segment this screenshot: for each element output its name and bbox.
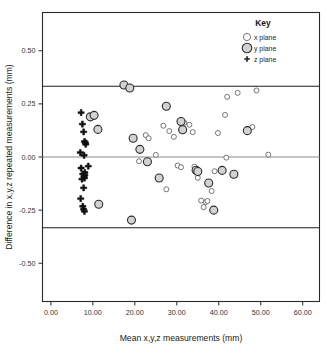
legend-label-z-plane: z plane xyxy=(254,56,276,64)
x-axis-title: Mean x,y,z measurements (mm) xyxy=(120,333,243,343)
data-point-y-plane xyxy=(179,126,187,134)
y-tick-label: -0.25 xyxy=(19,206,35,215)
data-point-x-plane xyxy=(212,169,217,174)
data-point-y-plane xyxy=(90,111,98,119)
x-tick-label: 30.00 xyxy=(168,308,186,317)
data-point-y-plane xyxy=(129,134,137,142)
bland-altman-scatter-figure: 0.0010.0020.0030.0040.0050.0060.00 0.500… xyxy=(0,0,326,348)
data-point-y-plane xyxy=(95,200,103,208)
legend-label-x-plane: x plane xyxy=(254,34,276,42)
data-point-y-plane xyxy=(230,170,238,178)
data-point-y-plane xyxy=(194,167,202,175)
data-point-x-plane xyxy=(195,175,200,180)
x-tick-label: 50.00 xyxy=(252,308,270,317)
y-axis-title: Difference in x,y,z repeated measurement… xyxy=(4,64,14,250)
data-point-x-plane xyxy=(235,90,240,95)
x-tick-label: 20.00 xyxy=(126,308,144,317)
y-tick-label: 0.25 xyxy=(22,99,36,108)
data-point-x-plane xyxy=(137,159,142,164)
legend-marker-x-plane xyxy=(243,33,250,40)
x-tick-label: 0.00 xyxy=(44,308,58,317)
data-point-y-plane xyxy=(136,145,144,153)
y-tick-label: -0.50 xyxy=(19,259,35,268)
data-point-y-plane xyxy=(143,158,151,166)
x-tick-label: 60.00 xyxy=(294,308,312,317)
data-point-y-plane xyxy=(205,179,213,187)
data-point-x-plane xyxy=(190,130,195,135)
plot-svg: 0.0010.0020.0030.0040.0050.0060.00 0.500… xyxy=(0,0,326,348)
y-tick-label: 0.00 xyxy=(22,153,36,162)
y-tick-label: 0.50 xyxy=(22,46,36,55)
data-point-x-plane xyxy=(164,187,169,192)
data-point-y-plane xyxy=(162,102,170,110)
data-point-y-plane xyxy=(127,216,135,224)
data-point-x-plane xyxy=(179,165,184,170)
legend-marker-y-plane xyxy=(242,43,252,53)
x-tick-label: 40.00 xyxy=(210,308,228,317)
data-point-y-plane xyxy=(126,84,134,92)
data-point-x-plane xyxy=(201,205,206,210)
legend-title: Key xyxy=(255,18,271,28)
data-point-x-plane xyxy=(205,198,210,203)
data-point-x-plane xyxy=(266,152,271,157)
data-point-x-plane xyxy=(187,122,192,127)
data-point-x-plane xyxy=(223,112,228,117)
data-point-x-plane xyxy=(209,189,214,194)
y-axis-ticks-group: 0.500.250.00-0.25-0.50 xyxy=(19,46,42,268)
data-point-y-plane xyxy=(177,118,185,126)
data-point-y-plane xyxy=(210,206,218,214)
data-point-x-plane xyxy=(161,123,166,128)
data-point-x-plane xyxy=(215,130,220,135)
data-point-x-plane xyxy=(254,88,259,93)
data-point-x-plane xyxy=(225,94,230,99)
data-point-x-plane xyxy=(167,129,172,134)
x-axis-ticks-group: 0.0010.0020.0030.0040.0050.0060.00 xyxy=(44,302,312,317)
data-point-x-plane xyxy=(171,134,176,139)
x-tick-label: 10.00 xyxy=(84,308,102,317)
legend-label-y-plane: y plane xyxy=(254,45,276,53)
data-point-x-plane xyxy=(224,155,229,160)
data-point-x-plane xyxy=(146,136,151,141)
data-point-y-plane xyxy=(243,127,251,135)
data-point-y-plane xyxy=(155,174,163,182)
data-point-x-plane xyxy=(153,152,158,157)
data-point-y-plane xyxy=(94,125,102,133)
data-point-y-plane xyxy=(218,166,226,174)
